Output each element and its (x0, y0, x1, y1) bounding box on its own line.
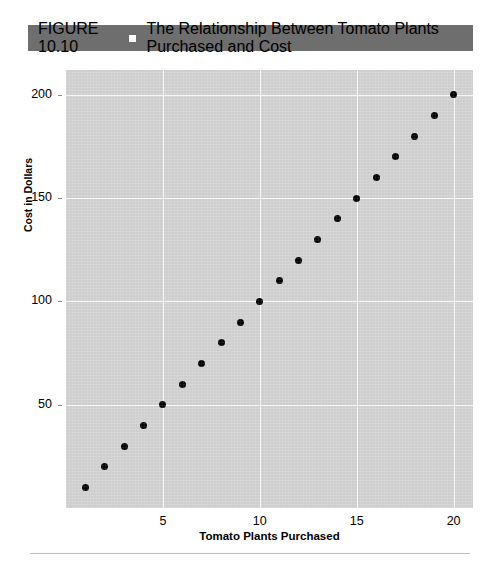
gridline-x-20 (454, 70, 455, 508)
x-tick-label-20: 20 (434, 514, 474, 528)
x-tick-label-5: 5 (143, 514, 183, 528)
scatter-chart: 50100150200 5101520 Cost in Dollars Toma… (0, 0, 494, 574)
data-point (121, 443, 128, 450)
data-point (353, 195, 360, 202)
data-point (179, 381, 186, 388)
data-point (373, 174, 380, 181)
gridline-x-15 (357, 70, 358, 508)
data-point (411, 133, 418, 140)
data-point (276, 277, 283, 284)
data-point (392, 153, 399, 160)
data-point (237, 319, 244, 326)
x-tick-label-15: 15 (337, 514, 377, 528)
data-point (140, 422, 147, 429)
x-tick-label-10: 10 (240, 514, 280, 528)
data-point (82, 484, 89, 491)
data-point (198, 360, 205, 367)
y-tick-mark-150 (58, 198, 62, 199)
y-tick-label-50: 50 (0, 397, 52, 411)
data-point (101, 463, 108, 470)
y-tick-mark-100 (58, 301, 62, 302)
y-tick-mark-200 (58, 95, 62, 96)
data-point (159, 401, 166, 408)
gridline-y-200 (66, 95, 473, 96)
data-point (218, 339, 225, 346)
data-point (431, 112, 438, 119)
x-axis-title: Tomato Plants Purchased (66, 530, 473, 542)
gridline-x-10 (260, 70, 261, 508)
data-point (334, 215, 341, 222)
data-point (450, 91, 457, 98)
y-tick-label-200: 200 (0, 87, 52, 101)
plot-area (66, 70, 473, 508)
data-point (256, 298, 263, 305)
gridline-x-5 (163, 70, 164, 508)
gridline-y-100 (66, 301, 473, 302)
footer-divider (30, 553, 470, 554)
data-point (295, 257, 302, 264)
gridline-y-50 (66, 405, 473, 406)
y-tick-mark-50 (58, 405, 62, 406)
y-axis-title: Cost in Dollars (22, 158, 34, 232)
data-point (314, 236, 321, 243)
y-tick-label-100: 100 (0, 293, 52, 307)
gridline-y-150 (66, 198, 473, 199)
